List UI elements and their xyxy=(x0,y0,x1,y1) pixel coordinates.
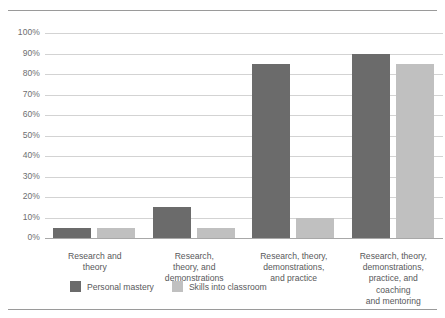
legend-item: Personal mastery xyxy=(70,281,154,292)
top-divider-rule xyxy=(8,10,437,11)
bar-group xyxy=(45,33,145,238)
y-axis-tick-label: 0% xyxy=(0,233,40,242)
y-axis-tick-label: 50% xyxy=(0,131,40,140)
bar xyxy=(352,54,390,239)
bar xyxy=(153,207,191,238)
x-axis-category-label: Research, theory,demonstrations,practice… xyxy=(336,251,445,307)
bar-group xyxy=(344,33,444,238)
y-axis-tick-label: 100% xyxy=(0,28,40,37)
x-axis-category-label-line: demonstrations, xyxy=(336,262,445,273)
bar xyxy=(97,228,135,238)
bar xyxy=(296,218,334,239)
bar-group xyxy=(145,33,245,238)
x-axis-category-label-line: Research, theory, xyxy=(236,251,352,262)
y-axis-tick-label: 30% xyxy=(0,172,40,181)
plot-area: 0%10%20%30%40%50%60%70%80%90%100% Resear… xyxy=(45,33,443,238)
bar-chart: 0%10%20%30%40%50%60%70%80%90%100% Resear… xyxy=(0,22,445,302)
legend-item: Skills into classroom xyxy=(172,281,267,292)
x-axis-category-label-line: Research and xyxy=(37,251,153,262)
legend-swatch-icon xyxy=(70,281,81,292)
y-axis-tick-label: 10% xyxy=(0,213,40,222)
legend-swatch-icon xyxy=(172,281,183,292)
x-axis-category-label: Research, theory,demonstrations,and prac… xyxy=(236,251,352,285)
y-axis-tick-label: 70% xyxy=(0,90,40,99)
bar xyxy=(396,64,434,238)
x-axis-category-label-line: practice, and xyxy=(336,273,445,284)
x-axis-category-label-line: coaching xyxy=(336,285,445,296)
x-axis-category-label-line: Research, theory, xyxy=(336,251,445,262)
x-axis-category-label-line: demonstrations, xyxy=(236,262,352,273)
figure: 0%10%20%30%40%50%60%70%80%90%100% Resear… xyxy=(0,0,445,318)
x-axis-category-label-line: theory xyxy=(37,262,153,273)
bottom-divider-rule xyxy=(8,309,437,310)
bar xyxy=(197,228,235,238)
x-axis-category-label-line: theory, and xyxy=(137,262,253,273)
legend-label: Personal mastery xyxy=(87,282,154,292)
y-axis-tick-label: 60% xyxy=(0,110,40,119)
gridline xyxy=(45,238,443,239)
x-axis-category-label: Research andtheory xyxy=(37,251,153,273)
bar xyxy=(53,228,91,238)
chart-legend: Personal masterySkills into classroom xyxy=(70,281,267,292)
y-axis-tick-label: 90% xyxy=(0,49,40,58)
bar-group xyxy=(244,33,344,238)
y-axis-tick-label: 80% xyxy=(0,69,40,78)
x-axis-category-label: Research,theory, anddemonstrations xyxy=(137,251,253,285)
x-axis-category-label-line: Research, xyxy=(137,251,253,262)
bar xyxy=(252,64,290,238)
y-axis-tick-label: 20% xyxy=(0,192,40,201)
y-axis-tick-label: 40% xyxy=(0,151,40,160)
x-axis-category-label-line: and mentoring xyxy=(336,296,445,307)
legend-label: Skills into classroom xyxy=(189,282,267,292)
